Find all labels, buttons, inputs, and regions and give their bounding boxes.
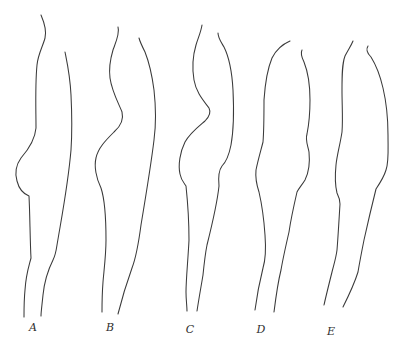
panel-e <box>324 41 388 307</box>
panel-c-right-outline <box>197 33 234 311</box>
panel-d <box>255 41 310 312</box>
panel-c-left-outline <box>179 25 210 311</box>
panel-a-right-outline <box>41 52 72 316</box>
panel-d-label: D <box>257 324 266 335</box>
panel-a-label: A <box>29 322 37 333</box>
panel-b-left-outline <box>95 27 122 312</box>
panel-c-label: C <box>186 324 194 335</box>
panel-e-right-outline <box>343 46 388 307</box>
panel-d-right-outline <box>274 50 310 312</box>
panel-b-label: B <box>106 322 114 333</box>
panel-b-right-outline <box>118 38 156 314</box>
panel-a-left-outline <box>16 15 46 317</box>
panel-e-left-outline <box>324 41 353 305</box>
panel-d-left-outline <box>255 41 290 310</box>
panel-b <box>95 27 155 314</box>
panel-a <box>16 15 72 317</box>
figure-canvas <box>0 0 401 344</box>
panel-e-label: E <box>327 326 335 337</box>
panel-c <box>179 25 233 311</box>
